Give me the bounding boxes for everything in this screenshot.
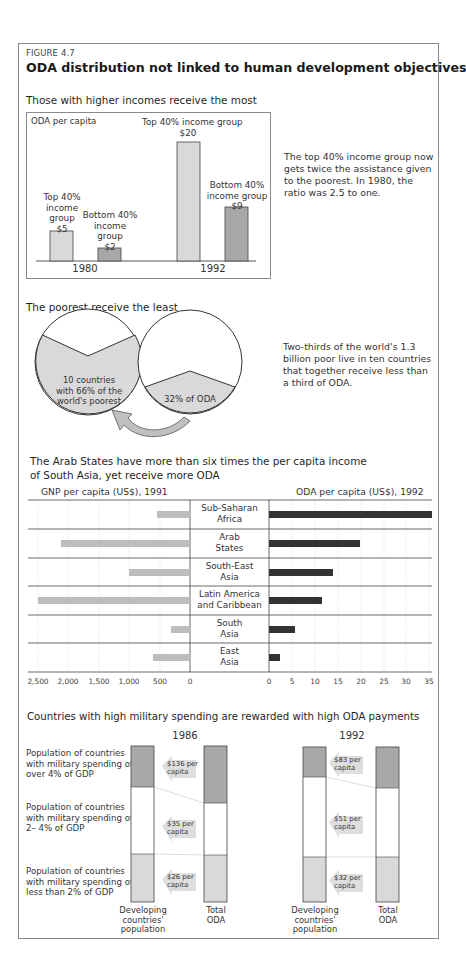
axis-label-oda-1986: TotalODA (198, 906, 234, 925)
axis-label-population-1992: Developingcountries'population (289, 906, 341, 935)
oda-per-capita-1986-2to4: $35 percapita (167, 820, 194, 836)
axis-label-oda-1992: TotalODA (370, 906, 406, 925)
oda-per-capita-1992-under2: $32 percapita (334, 874, 361, 890)
oda-per-capita-1992-2to4: $51 percapita (334, 815, 361, 831)
axis-label-population-1986: Developingcountries'population (117, 906, 169, 935)
oda-per-capita-1992-over4: $83 percapita (334, 756, 361, 772)
oda-per-capita-1986-under2: $26 percapita (167, 873, 194, 889)
oda-per-capita-1986-over4: $136 percapita (167, 760, 198, 776)
